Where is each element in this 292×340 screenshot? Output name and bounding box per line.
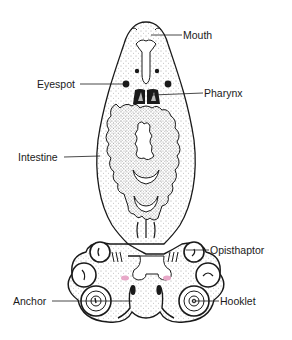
label-pharynx: Pharynx bbox=[204, 87, 243, 99]
label-intestine: Intestine bbox=[18, 151, 58, 163]
label-mouth: Mouth bbox=[183, 29, 212, 41]
flatworm-illustration bbox=[0, 0, 292, 340]
label-eyespot: Eyespot bbox=[37, 78, 75, 90]
label-hooklet: Hooklet bbox=[220, 295, 256, 307]
diagram-canvas: Mouth Eyespot Pharynx Intestine Opisthap… bbox=[0, 0, 292, 340]
label-opisthaptor: Opisthaptor bbox=[210, 244, 264, 256]
label-anchor: Anchor bbox=[13, 295, 46, 307]
